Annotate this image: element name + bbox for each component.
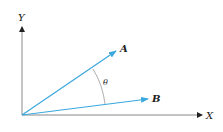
y-axis-label: Y xyxy=(18,12,26,23)
angle-label: θ xyxy=(103,78,108,87)
vector-b xyxy=(22,99,148,115)
vector-a-label: A xyxy=(119,43,128,54)
vector-b-label: B xyxy=(151,93,160,104)
vector-diagram: Y X A B θ xyxy=(0,0,223,132)
x-axis-label: X xyxy=(205,110,214,121)
